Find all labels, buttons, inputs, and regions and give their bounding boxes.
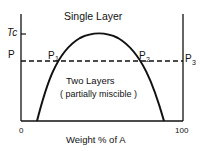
point-p3-label: P 3: [185, 53, 196, 66]
x-min-label: 0: [19, 126, 24, 135]
partially-miscible-label: ( partially miscible ): [60, 89, 137, 99]
single-layer-label: Single Layer: [64, 10, 123, 22]
svg-text:1: 1: [55, 55, 59, 62]
svg-text:3: 3: [192, 59, 196, 66]
svg-text:2: 2: [146, 56, 150, 63]
phase-diagram: Tc P Single Layer P 1 P 2 P 3 Two Layers…: [0, 0, 206, 151]
svg-text:P: P: [139, 50, 146, 61]
svg-text:P: P: [48, 50, 55, 61]
svg-text:P: P: [185, 53, 192, 64]
p-label: P: [8, 49, 15, 60]
point-p1-label: P 1: [48, 50, 59, 62]
tc-label: Tc: [7, 27, 17, 38]
two-layers-label: Two Layers: [66, 75, 115, 86]
x-max-label: 100: [175, 126, 189, 135]
x-axis-title: Weight % of A: [66, 134, 126, 145]
